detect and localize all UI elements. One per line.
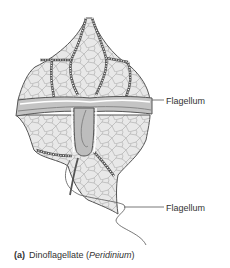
label-longitudinal-flagellum: Flagellum: [166, 203, 205, 213]
caption-close-paren: ): [132, 250, 135, 260]
longitudinal-groove: [72, 108, 96, 156]
epitheca: [18, 18, 150, 100]
label-transverse-flagellum: Flagellum: [166, 96, 205, 106]
caption-name: Dinoflagellate: [29, 250, 84, 260]
figure-caption: (a)Dinoflagellate (Peridinium): [14, 250, 135, 260]
caption-genus: Peridinium: [89, 250, 132, 260]
dinoflagellate-figure: Flagellum Flagellum (a)Dinoflagellate (P…: [0, 0, 230, 268]
dinoflagellate-illustration: [0, 0, 230, 268]
caption-part-letter: (a): [14, 250, 25, 260]
